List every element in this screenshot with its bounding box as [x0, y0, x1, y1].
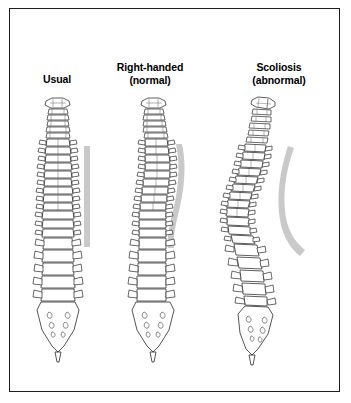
spine-usual — [33, 98, 83, 362]
spine-comparison-figure: Usual Right-handed (normal) Scoliosis (a… — [0, 0, 351, 403]
reference-bar-scoliosis — [278, 146, 305, 256]
spine-illustrations — [0, 0, 351, 403]
spine-scoliosis — [220, 97, 276, 365]
reference-bar-usual — [84, 146, 90, 247]
